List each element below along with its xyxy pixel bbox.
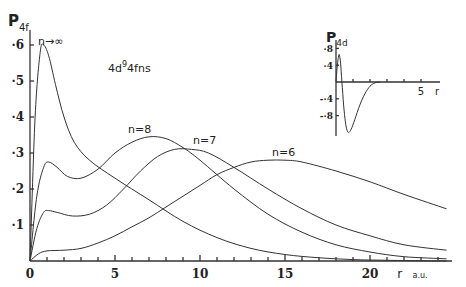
x-tick-label: 0 [26,267,34,281]
inset-curve-p4d [336,54,380,132]
inset-y-tick-label: -·8 [320,111,333,121]
main-labels: n→∞n=8n=7n=64d94fns [38,35,295,159]
x-tick-label: 15 [277,267,294,281]
y-tick-label: ·5 [11,74,24,88]
y-tick-label: ·2 [11,182,24,196]
series-label: n=7 [193,134,216,147]
inset-x-tick-label: 5 [418,86,424,97]
curve-n6 [30,160,447,261]
y-tick-label: ·4 [11,110,24,124]
x-tick-label: 10 [192,267,209,281]
inset-curves [336,54,380,132]
series-label: n=6 [272,146,295,159]
series-label: n=8 [128,123,151,136]
x-tick-label: 20 [362,267,379,281]
y-tick-label: ·6 [11,38,24,52]
x-axis-unit: a.u. [413,271,428,280]
curve-n [30,44,447,261]
y-axis-label: P4f [8,12,29,33]
y-tick-label: ·1 [11,218,24,232]
main-curves [30,44,447,261]
configuration-annotation: 4d94fns [108,60,151,75]
inset-y-tick-label: ·4 [324,61,333,71]
y-tick-label: ·3 [11,146,24,160]
x-tick-label: 5 [111,267,119,281]
inset-x-axis-label: r [435,86,440,97]
radial-wavefunction-chart: 05101520·1·2·3·4·5·6P4fra.u. n→∞n=8n=7n=… [0,0,466,287]
series-label: n→∞ [38,35,63,48]
x-axis-label: r [397,267,402,281]
inset-y-tick-label: ·8 [324,44,333,54]
curve-n8 [30,137,447,261]
inset-y-tick-label: -·4 [320,94,333,104]
